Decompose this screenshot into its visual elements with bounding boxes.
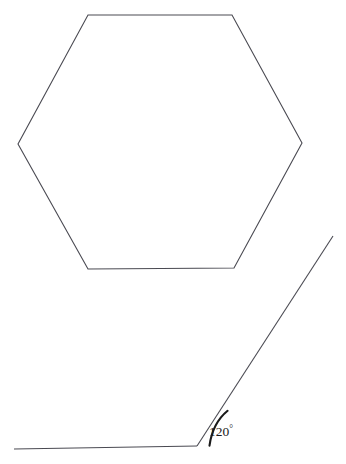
angle-label: 120° [209, 424, 233, 439]
degree-symbol: ° [229, 424, 233, 434]
oblique-ray [197, 236, 333, 446]
geometry-figure-canvas: 120° [0, 0, 346, 464]
horizontal-ray [14, 446, 197, 449]
hexagon-shape [18, 15, 302, 269]
geometry-figure-svg: 120° [0, 0, 346, 464]
angle-label-value: 120 [209, 424, 230, 439]
